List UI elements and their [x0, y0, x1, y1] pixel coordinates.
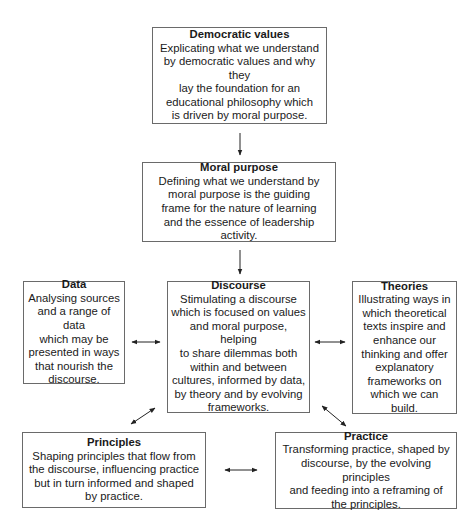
node-discourse: Discourse Stimulating a discourse which …: [167, 281, 310, 413]
arrow-discourse-principles: [131, 408, 155, 424]
node-body: Defining what we understand by moral pur…: [146, 175, 332, 243]
node-title: Discourse: [171, 279, 306, 293]
arrow-discourse-practice: [322, 406, 346, 426]
node-democratic-values: Democratic values Explicating what we un…: [152, 27, 327, 124]
node-body: Stimulating a discourse which is focused…: [171, 293, 306, 415]
node-title: Moral purpose: [146, 161, 332, 175]
node-title: Data: [27, 278, 121, 292]
node-data: Data Analysing sources and a range of da…: [23, 281, 125, 384]
node-moral-purpose: Moral purpose Defining what we understan…: [142, 162, 336, 242]
node-practice: Practice Transforming practice, shaped b…: [275, 432, 457, 509]
node-body: Illustrating ways in which theoretical t…: [356, 293, 453, 415]
node-title: Theories: [356, 280, 453, 294]
node-title: Democratic values: [156, 28, 323, 42]
node-body: Transforming practice, shaped by discour…: [279, 443, 453, 511]
node-principles: Principles Shaping principles that flow …: [22, 432, 206, 508]
node-body: Shaping principles that flow from the di…: [26, 450, 202, 504]
node-title: Principles: [26, 436, 202, 450]
node-theories: Theories Illustrating ways in which theo…: [352, 281, 457, 414]
node-body: Analysing sources and a range of data wh…: [27, 292, 121, 387]
node-body: Explicating what we understand by democr…: [156, 42, 323, 124]
node-title: Practice: [279, 430, 453, 444]
